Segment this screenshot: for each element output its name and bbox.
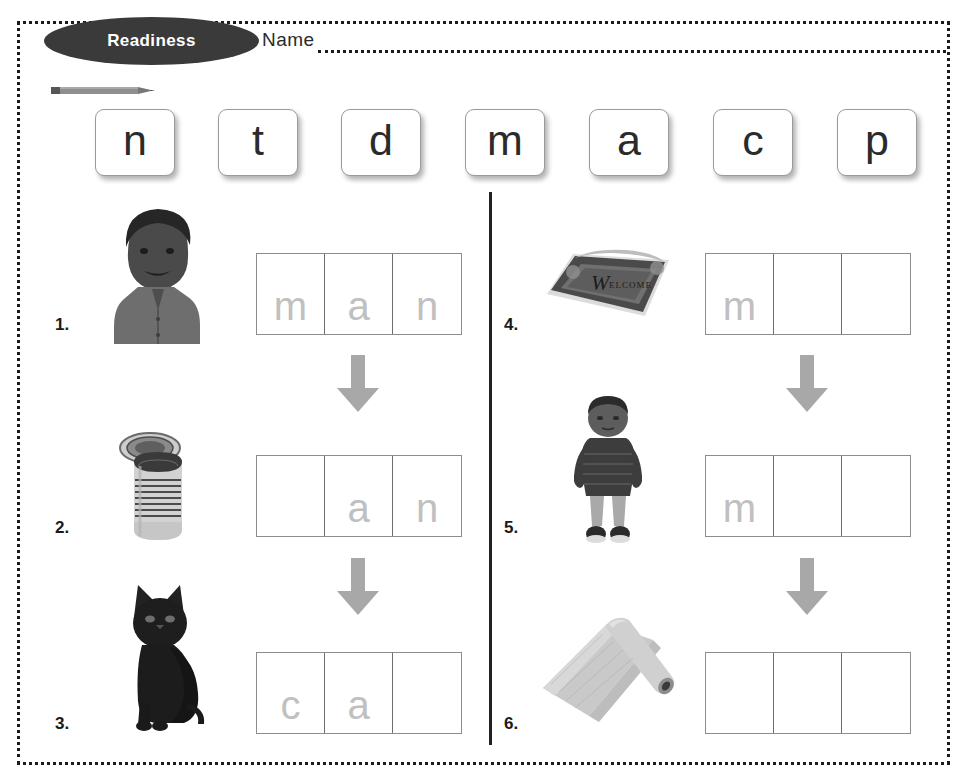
word-cell-letter: m	[706, 488, 773, 528]
word-cell[interactable]: a	[325, 653, 393, 733]
word-cell-letter: a	[325, 685, 392, 725]
word-cell-letter: c	[257, 685, 324, 725]
letter-tile-c[interactable]: c	[713, 109, 793, 176]
word-grid-5[interactable]: m	[705, 455, 911, 537]
letter-tile-a[interactable]: a	[589, 109, 669, 176]
word-cell[interactable]: m	[257, 254, 325, 334]
word-cell[interactable]: n	[393, 254, 461, 334]
svg-text:W: W	[591, 270, 611, 295]
word-grid-2[interactable]: a n	[256, 455, 462, 537]
word-cell[interactable]: c	[257, 653, 325, 733]
letter-tile-n[interactable]: n	[95, 109, 175, 176]
word-cell-letter: n	[393, 488, 461, 528]
word-cell[interactable]: n	[393, 456, 461, 536]
letter-tile-label: c	[742, 119, 764, 162]
down-arrow-icon	[335, 355, 381, 413]
word-cell[interactable]: m	[706, 456, 774, 536]
letter-tile-p[interactable]: p	[837, 109, 917, 176]
word-grid-6[interactable]	[705, 652, 911, 734]
letter-tile-label: d	[369, 119, 393, 162]
word-cell[interactable]	[842, 653, 910, 733]
word-cell-letter: a	[325, 286, 392, 326]
boy-standing-photo	[568, 392, 648, 552]
item-number-4: 4.	[504, 315, 518, 335]
word-cell[interactable]	[257, 456, 325, 536]
word-cell[interactable]: m	[706, 254, 774, 334]
pencil-icon	[51, 85, 155, 96]
word-grid-1[interactable]: m a n	[256, 253, 462, 335]
word-cell[interactable]	[774, 653, 842, 733]
word-cell-letter: n	[393, 286, 461, 326]
letter-tile-label: m	[487, 119, 523, 162]
word-cell[interactable]	[393, 653, 461, 733]
down-arrow-icon	[784, 558, 830, 616]
word-cell[interactable]: a	[325, 456, 393, 536]
readiness-badge: Readiness	[44, 17, 259, 65]
word-cell[interactable]	[706, 653, 774, 733]
item-number-1: 1.	[55, 315, 69, 335]
item-number-6: 6.	[504, 714, 518, 734]
letter-tile-d[interactable]: d	[341, 109, 421, 176]
letter-tile-t[interactable]: t	[218, 109, 298, 176]
tin-can-photo	[110, 418, 206, 544]
word-cell-letter: m	[257, 286, 324, 326]
letter-tile-m[interactable]: m	[465, 109, 545, 176]
black-cat-photo	[112, 583, 212, 736]
word-cell-letter: m	[706, 286, 773, 326]
welcome-mat-photo: W ELCOME	[533, 232, 683, 342]
letter-tile-label: t	[252, 119, 264, 162]
item-number-3: 3.	[55, 714, 69, 734]
item-number-2: 2.	[55, 518, 69, 538]
word-cell[interactable]	[842, 456, 910, 536]
down-arrow-icon	[335, 558, 381, 616]
letter-tile-label: p	[865, 119, 889, 162]
word-cell[interactable]	[842, 254, 910, 334]
rolled-mat-photo	[533, 604, 693, 729]
word-cell[interactable]	[774, 254, 842, 334]
down-arrow-icon	[784, 355, 830, 413]
worksheet-page: Readiness Name n t d m a c p 1.	[0, 0, 969, 781]
letter-tile-label: n	[123, 119, 147, 162]
word-grid-3[interactable]: c a	[256, 652, 462, 734]
word-cell[interactable]: a	[325, 254, 393, 334]
name-write-line[interactable]	[318, 50, 946, 53]
name-label: Name	[262, 29, 315, 51]
man-portrait-photo	[108, 199, 206, 344]
svg-text:ELCOME: ELCOME	[609, 280, 652, 290]
column-divider	[489, 192, 492, 745]
letter-tile-label: a	[617, 119, 641, 162]
readiness-badge-label: Readiness	[107, 31, 196, 51]
word-cell[interactable]	[774, 456, 842, 536]
item-number-5: 5.	[504, 518, 518, 538]
word-grid-4[interactable]: m	[705, 253, 911, 335]
word-cell-letter: a	[325, 488, 392, 528]
